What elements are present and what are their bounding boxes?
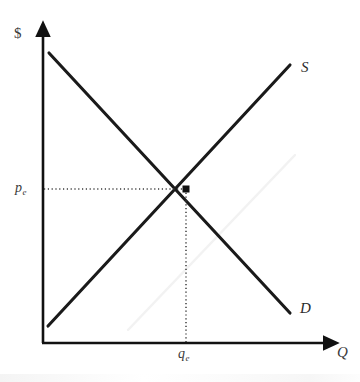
equilibrium-quantity-tick-label: qe	[178, 347, 189, 361]
ghost-diagonal-artifact	[128, 155, 295, 330]
demand-curve[interactable]	[49, 53, 290, 313]
equilibrium-quantity-symbol: q	[178, 346, 185, 361]
y-axis-title-dollar: $	[14, 26, 22, 41]
demand-curve-label: D	[300, 301, 311, 316]
equilibrium-price-subscript: e	[23, 187, 27, 197]
equilibrium-point-marker[interactable]	[183, 186, 190, 193]
equilibrium-price-tick-label: pe	[15, 181, 26, 195]
x-axis-title-quantity: Q	[337, 345, 348, 360]
equilibrium-price-symbol: p	[15, 180, 22, 195]
supply-demand-chart: $ Q S D pe qe	[0, 0, 360, 382]
chart-canvas	[0, 0, 360, 382]
supply-curve-label: S	[301, 60, 309, 75]
equilibrium-quantity-subscript: e	[186, 353, 190, 363]
bottom-edge-band	[0, 374, 360, 382]
